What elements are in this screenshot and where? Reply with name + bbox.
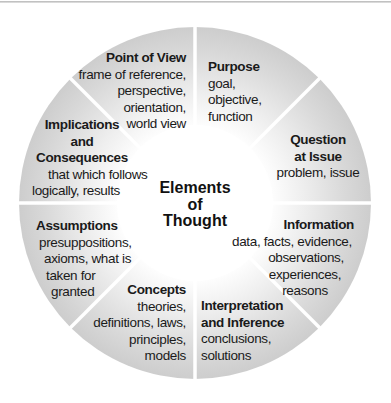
- element-title: Implications: [30, 117, 134, 134]
- center-title-line: Elements: [135, 180, 255, 197]
- element-title: Interpretation: [201, 298, 311, 315]
- element-description-line: logically, results: [30, 183, 134, 200]
- element-description-line: axioms, what is: [36, 251, 136, 268]
- element-title: and: [30, 134, 134, 151]
- element-title: Point of View: [70, 50, 186, 67]
- element-description-line: objective,: [208, 92, 288, 109]
- element-title: Purpose: [208, 59, 288, 76]
- element-description-line: problem, issue: [266, 165, 370, 182]
- element-description-line: presuppositions,: [36, 235, 136, 252]
- element-description-line: principles,: [86, 332, 186, 349]
- element-description-line: orientation,: [70, 100, 186, 117]
- element-title: Question: [266, 132, 370, 149]
- element-description-line: frame of reference,: [70, 67, 186, 84]
- element-title: Consequences: [30, 150, 134, 167]
- element-description-line: solutions: [201, 348, 311, 365]
- element-description-line: goal,: [208, 76, 288, 93]
- element-description-line: conclusions,: [201, 331, 311, 348]
- element-question-at-issue: Question at Issue problem, issue: [266, 132, 370, 182]
- element-description-line: definitions, laws,: [86, 315, 186, 332]
- element-description-line: models: [86, 348, 186, 365]
- element-title: Assumptions: [36, 218, 136, 235]
- element-information: Information data, facts, evidence, obser…: [230, 217, 354, 300]
- element-description-line: function: [208, 109, 288, 126]
- element-description-line: observations,: [230, 250, 354, 267]
- element-description-line: taken for: [36, 268, 136, 285]
- element-description-line: data, facts, evidence,: [230, 234, 354, 251]
- element-description-line: experiences,: [230, 267, 354, 284]
- element-title: at Issue: [266, 149, 370, 166]
- element-description-line: perspective,: [70, 83, 186, 100]
- element-description-line: theories,: [86, 299, 186, 316]
- element-implications-and-consequences: Implications and Consequences that which…: [30, 117, 134, 200]
- element-assumptions: Assumptions presuppositions, axioms, wha…: [36, 218, 136, 301]
- element-interpretation-and-inference: Interpretation and Inference conclusions…: [201, 298, 311, 364]
- element-description-line: that which follows: [30, 167, 134, 184]
- element-description-line: granted: [36, 284, 136, 301]
- center-title-line: of: [135, 197, 255, 214]
- element-title: Information: [230, 217, 354, 234]
- element-purpose: Purpose goal, objective, function: [208, 59, 288, 125]
- element-title: and Inference: [201, 315, 311, 332]
